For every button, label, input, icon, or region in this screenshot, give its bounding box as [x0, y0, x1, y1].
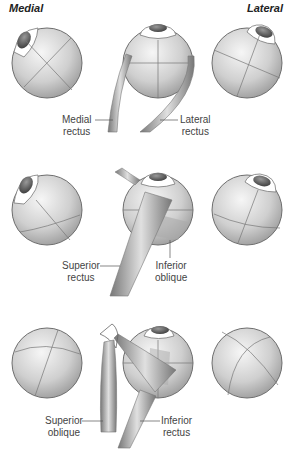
label-line-2: oblique — [45, 427, 83, 439]
inferior-rectus-muscle — [118, 390, 156, 448]
label-superior-oblique: Superior oblique — [45, 415, 83, 439]
row-2-lateral-eye — [212, 174, 282, 245]
label-line-1: Inferior — [161, 415, 192, 427]
label-line-1: Medial — [62, 114, 91, 126]
row-3-medial-eye — [12, 328, 82, 398]
label-line-1: Lateral — [180, 114, 211, 126]
label-line-2: rectus — [180, 126, 211, 138]
label-medial-rectus: Medial rectus — [62, 114, 91, 138]
row-2-medial-eye — [12, 174, 82, 245]
label-line-1: Superior — [62, 260, 100, 272]
label-lateral-rectus: Lateral rectus — [180, 114, 211, 138]
label-line-2: rectus — [62, 126, 91, 138]
superior-oblique-muscle — [100, 340, 116, 432]
label-superior-rectus: Superior rectus — [62, 260, 100, 284]
label-inferior-oblique: Inferior oblique — [155, 260, 187, 284]
label-line-2: oblique — [155, 272, 187, 284]
label-line-1: Inferior — [155, 260, 187, 272]
lateral-heading: Lateral — [247, 2, 283, 14]
row-1-medial-eye — [12, 28, 82, 98]
label-line-2: rectus — [62, 272, 100, 284]
label-inferior-rectus: Inferior rectus — [161, 415, 192, 439]
label-line-2: rectus — [161, 427, 192, 439]
medial-heading: Medial — [9, 2, 43, 14]
row-3-lateral-eye — [212, 328, 282, 398]
label-line-1: Superior — [45, 415, 83, 427]
row-1-lateral-eye — [212, 24, 282, 98]
extraocular-muscles-diagram — [0, 0, 292, 453]
